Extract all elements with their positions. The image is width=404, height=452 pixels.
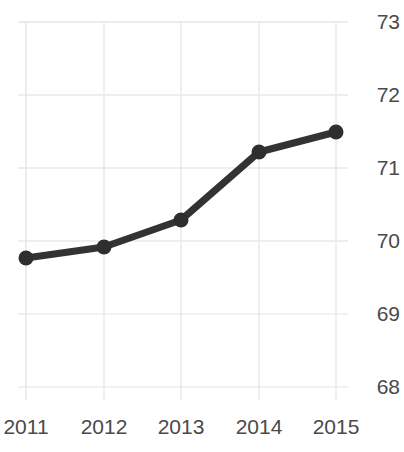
- horizontal-gridlines: [18, 22, 348, 387]
- x-tick-label-2012: 2012: [69, 416, 139, 437]
- y-tick-label-71: 71: [358, 157, 400, 178]
- vertical-gridlines: [26, 22, 336, 400]
- data-point: [174, 213, 189, 228]
- plot-svg: [0, 0, 356, 400]
- data-point: [252, 145, 267, 160]
- y-tick-label-72: 72: [358, 84, 400, 105]
- plot-area: [0, 0, 356, 400]
- x-tick-label-2014: 2014: [224, 416, 294, 437]
- data-point: [19, 251, 34, 266]
- line-chart: 73 72 71 70 69 68 2011 2012 2013 2014 20…: [0, 0, 404, 452]
- y-tick-label-69: 69: [358, 303, 400, 324]
- y-tick-label-70: 70: [358, 230, 400, 251]
- y-tick-label-73: 73: [358, 11, 400, 32]
- x-tick-label-2013: 2013: [146, 416, 216, 437]
- y-tick-label-68: 68: [358, 376, 400, 397]
- x-tick-label-2011: 2011: [0, 416, 61, 437]
- x-tick-label-2015: 2015: [301, 416, 371, 437]
- data-point: [97, 240, 112, 255]
- data-point: [329, 125, 344, 140]
